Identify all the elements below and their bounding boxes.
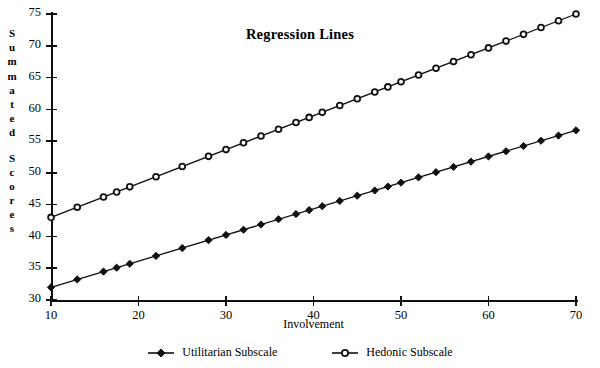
y-axis-title-char: c [10,165,15,179]
data-point [372,89,378,95]
data-point [468,52,474,58]
data-point [127,184,133,190]
data-point [354,192,361,199]
legend-item-hedonic: Hedonic Subscale [331,345,452,360]
y-tick-label: 65 [17,69,41,84]
data-point [113,264,120,271]
data-point [240,226,247,233]
data-point [47,284,54,291]
data-point [415,174,422,181]
data-point [397,179,404,186]
legend-label: Utilitarian Subscale [182,345,277,360]
chart-legend: Utilitarian SubscaleHedonic Subscale [0,345,600,360]
y-tick-label: 40 [17,228,41,243]
data-point [74,204,80,210]
data-point [114,189,120,195]
series-plot [51,14,576,300]
data-point [556,18,562,24]
y-axis-title-char: S [9,151,15,165]
data-point [205,237,212,244]
data-point [241,140,247,146]
y-tick-label: 30 [17,291,41,306]
data-point [319,203,326,210]
data-point [555,132,562,139]
series-utilitarian [47,127,579,291]
data-point [276,126,282,132]
data-point [293,120,299,126]
data-point [538,25,544,31]
regression-lines-chart: Regression Lines SummatedScores 30354045… [0,0,600,368]
open-circle-icon [331,347,359,359]
x-axis-title: Involvement [51,317,576,332]
data-point [384,183,391,190]
data-point [257,221,264,228]
data-point [337,103,343,109]
data-point [573,11,579,17]
data-point [292,210,299,217]
y-axis-title-char: o [9,179,15,193]
legend-label: Hedonic Subscale [366,345,452,360]
data-point [450,163,457,170]
data-point [537,137,544,144]
y-axis-title-char: r [10,193,15,207]
series-hedonic [48,11,579,220]
data-point [432,169,439,176]
data-point [503,38,509,44]
data-point [258,133,264,139]
data-point [179,244,186,251]
data-point [433,65,439,71]
data-point [467,158,474,165]
y-tick-label: 50 [17,164,41,179]
data-point [74,276,81,283]
legend-item-utilitarian: Utilitarian Subscale [147,345,277,360]
data-point [354,96,360,102]
y-tick-label: 70 [17,37,41,52]
y-tick-label: 35 [17,259,41,274]
data-point [520,142,527,149]
plot-area: 30354045505560657075 10203040506070 [51,14,576,300]
data-point [486,45,492,51]
y-tick-label: 75 [17,5,41,20]
data-point [336,197,343,204]
data-point [371,187,378,194]
data-point [385,84,391,90]
data-point [152,252,159,259]
data-point [206,153,212,159]
data-point [179,164,185,170]
y-axis-title-char: e [10,207,15,221]
data-point [319,109,325,115]
data-point [306,207,313,214]
data-point [416,72,422,78]
data-point [306,114,312,120]
data-point [153,174,159,180]
data-point [100,268,107,275]
data-point [451,59,457,65]
y-axis-title-char: e [10,111,15,125]
y-axis-title-char: d [9,125,15,139]
y-tick-label: 45 [17,196,41,211]
y-tick-label: 55 [17,132,41,147]
data-point [223,147,229,153]
y-axis-title-char: a [9,83,15,97]
data-point [275,216,282,223]
y-axis-title-char: S [9,26,15,40]
data-point [572,127,579,134]
y-axis-title-char: m [7,54,16,68]
data-point [502,148,509,155]
data-point [222,231,229,238]
data-point [126,260,133,267]
filled-diamond-icon [147,347,175,359]
y-tick-label: 60 [17,101,41,116]
data-point [101,194,107,200]
data-point [485,153,492,160]
data-point [521,31,527,37]
data-point [398,79,404,85]
data-point [48,214,54,220]
y-axis-title-char: m [7,69,16,83]
x-axis-line [51,300,578,302]
y-axis-title-char: s [10,221,14,235]
y-axis-title-char: t [10,97,14,111]
y-axis-title-char: u [9,40,15,54]
